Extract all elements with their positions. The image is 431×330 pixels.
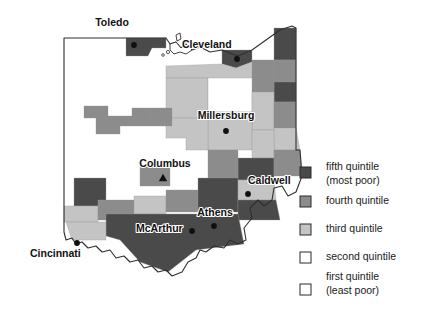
county-region bbox=[134, 196, 166, 214]
legend-label: first quintile bbox=[326, 270, 379, 282]
legend-swatch bbox=[300, 284, 311, 295]
county-region bbox=[166, 190, 198, 212]
legend-swatch bbox=[300, 167, 311, 178]
county-region bbox=[274, 82, 296, 102]
city-label: Cincinnati bbox=[30, 247, 81, 259]
legend-label: fourth quintile bbox=[326, 194, 389, 206]
city-marker-icon bbox=[74, 240, 80, 246]
county-region bbox=[274, 28, 296, 60]
city-marker-icon bbox=[223, 128, 229, 134]
county-region bbox=[274, 60, 296, 82]
city-label: McArthur bbox=[136, 222, 183, 234]
legend-sublabel: (most poor) bbox=[326, 174, 380, 186]
city-marker-icon bbox=[211, 223, 217, 229]
county-region bbox=[252, 130, 274, 158]
legend-swatch bbox=[300, 252, 311, 263]
county-region bbox=[238, 200, 280, 220]
city-marker-icon bbox=[131, 42, 137, 48]
city-label: Columbus bbox=[139, 157, 190, 169]
county-region bbox=[66, 222, 106, 240]
city-marker-icon bbox=[189, 228, 195, 234]
legend-label: fifth quintile bbox=[326, 160, 379, 172]
city-label: Caldwell bbox=[248, 174, 291, 186]
legend-label: third quintile bbox=[326, 222, 383, 234]
city-label: Toledo bbox=[95, 16, 129, 28]
ohio-poverty-choropleth-figure: ToledoClevelandMillersburgColumbusCaldwe… bbox=[0, 0, 431, 330]
legend-label: second quintile bbox=[326, 250, 396, 262]
city-label: Athens bbox=[197, 206, 233, 218]
city-marker-icon bbox=[234, 56, 240, 62]
city-marker-icon bbox=[245, 191, 251, 197]
county-region bbox=[274, 150, 302, 176]
city-label: Millersburg bbox=[198, 109, 255, 121]
legend-swatch bbox=[300, 224, 311, 235]
legend-sublabel: (least poor) bbox=[326, 284, 379, 296]
county-region bbox=[64, 206, 98, 222]
city-label: Cleveland bbox=[182, 38, 232, 50]
county-region bbox=[140, 166, 170, 186]
county-region bbox=[150, 108, 172, 126]
legend-swatch bbox=[300, 196, 311, 207]
county-region bbox=[274, 102, 296, 128]
map-canvas: ToledoClevelandMillersburgColumbusCaldwe… bbox=[0, 0, 431, 330]
county-region bbox=[208, 78, 252, 112]
county-region bbox=[252, 92, 274, 130]
county-region bbox=[208, 150, 238, 178]
